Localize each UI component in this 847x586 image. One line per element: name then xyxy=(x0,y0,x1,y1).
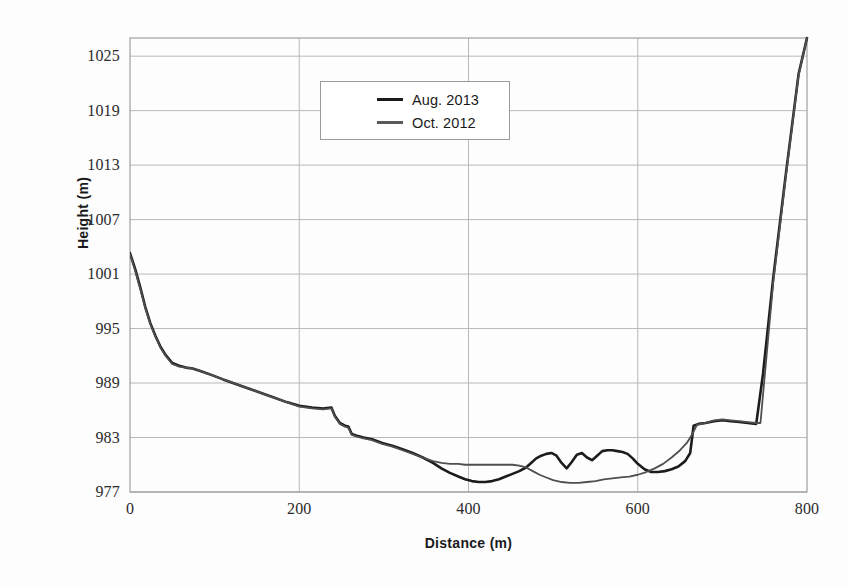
x-axis-tick-label: 800 xyxy=(777,500,837,518)
legend-item-oct-2012: Oct. 2012 xyxy=(321,111,509,134)
legend-label: Oct. 2012 xyxy=(412,115,476,131)
x-axis-title: Distance (m) xyxy=(130,535,807,551)
chart-legend: Aug. 2013 Oct. 2012 xyxy=(320,81,510,140)
x-axis-tick-label: 400 xyxy=(439,500,499,518)
x-axis-tick-label: 0 xyxy=(100,500,160,518)
x-axis-tick-label: 600 xyxy=(608,500,668,518)
y-axis-tick-label: 1019 xyxy=(58,102,120,120)
legend-line-swatch-icon xyxy=(377,121,403,124)
legend-item-aug-2013: Aug. 2013 xyxy=(321,88,509,111)
y-axis-tick-label: 995 xyxy=(58,320,120,338)
y-axis-tick-label: 989 xyxy=(58,374,120,392)
y-axis-title: Height (m) xyxy=(75,148,91,278)
x-axis-tick-label: 200 xyxy=(269,500,329,518)
chart-container: 10251019101310071001995989983977 0200400… xyxy=(0,0,847,586)
y-axis-tick-label: 1025 xyxy=(58,47,120,65)
y-axis-tick-label: 983 xyxy=(58,429,120,447)
legend-line-swatch-icon xyxy=(377,98,403,101)
y-axis-tick-label: 977 xyxy=(58,483,120,501)
legend-label: Aug. 2013 xyxy=(412,92,479,108)
